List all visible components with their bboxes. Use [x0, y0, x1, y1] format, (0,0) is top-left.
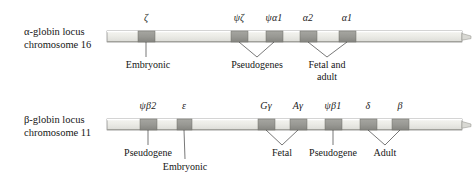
annotation-pseudogene-right-beta: Pseudogene — [309, 147, 357, 159]
gene-block-a-gamma[interactable] — [290, 119, 307, 130]
gene-label-psi-beta-2: ψβ2 — [140, 100, 157, 111]
leader-fetal-beta — [266, 130, 298, 145]
beta-chromosome-bar — [107, 119, 471, 130]
gene-block-psi-beta-1[interactable] — [325, 119, 342, 130]
annotation-embryonic-beta: Embryonic — [163, 161, 207, 173]
beta-gene-blocks — [140, 119, 409, 130]
annotation-adult-beta: Adult — [374, 147, 397, 159]
gene-label-a-gamma: Aγ — [293, 100, 303, 111]
globin-loci-figure: α-globin locus chromosome 16 — [0, 0, 475, 184]
gene-block-delta[interactable] — [360, 119, 377, 130]
gene-label-epsilon: ε — [182, 100, 186, 111]
annotation-fetal-beta: Fetal — [272, 147, 292, 159]
annotation-pseudogene-left-beta: Pseudogene — [124, 147, 172, 159]
gene-block-epsilon[interactable] — [177, 119, 192, 130]
gene-block-beta[interactable] — [392, 119, 409, 130]
gene-label-delta: δ — [366, 100, 371, 111]
leader-adult-beta — [368, 130, 400, 145]
gene-block-psi-beta-2[interactable] — [140, 119, 157, 130]
gene-label-beta: β — [397, 100, 402, 111]
beta-bar-tail — [462, 122, 471, 129]
gene-label-psi-beta-1: ψβ1 — [325, 100, 342, 111]
gene-label-g-gamma: Gγ — [260, 100, 272, 111]
beta-chromosome-graphic — [0, 0, 475, 184]
leader-embryonic-beta — [184, 130, 185, 159]
gene-block-g-gamma[interactable] — [258, 119, 275, 130]
